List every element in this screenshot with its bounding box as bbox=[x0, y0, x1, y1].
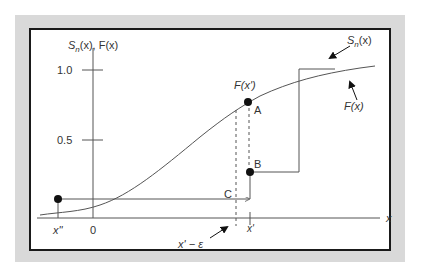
label-point-B: B bbox=[254, 158, 261, 170]
y-tick-label-1: 1.0 bbox=[57, 64, 72, 76]
y-tick-label-0.5: 0.5 bbox=[57, 134, 72, 146]
label-point-A: A bbox=[254, 104, 262, 116]
arrow-Sn-label bbox=[330, 46, 350, 58]
label-F-xprime: F(x') bbox=[234, 79, 256, 91]
arrow-F-label bbox=[350, 82, 357, 100]
label-F: F(x) bbox=[344, 100, 364, 112]
x-tick-label-xdoubleprime: x'' bbox=[52, 224, 64, 236]
x-tick-label-xprime: x' bbox=[246, 223, 255, 234]
label-Sn: Sn(x) bbox=[347, 34, 372, 49]
point-B bbox=[246, 168, 254, 176]
x-axis-label: x bbox=[385, 212, 392, 224]
point-A bbox=[244, 98, 252, 106]
empirical-step-Sn-upper bbox=[250, 69, 335, 199]
label-point-C: C bbox=[224, 188, 232, 200]
arrow-x-prime-minus-eps bbox=[210, 227, 227, 238]
point-x-doubleprime bbox=[54, 195, 62, 203]
x-tick-label-0: 0 bbox=[90, 224, 96, 236]
x-tick-label-xprime-minus-eps: x' − ε bbox=[177, 238, 203, 250]
diagram: Sn(x), F(x) 1.0 0.5 x'' 0 x' x' − ε x F(… bbox=[0, 0, 421, 278]
